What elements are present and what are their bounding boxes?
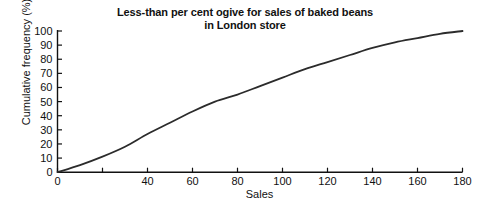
y-tick-label: 80 xyxy=(40,53,52,65)
y-tick-label: 100 xyxy=(34,25,52,37)
x-tick-label: 180 xyxy=(453,175,471,187)
chart-figure: Less-than per cent ogive for sales of ba… xyxy=(0,0,486,208)
y-tick-label: 90 xyxy=(40,39,52,51)
y-tick-label: 20 xyxy=(40,138,52,150)
y-tick-label: 0 xyxy=(46,166,52,178)
x-tick-label: 120 xyxy=(318,175,336,187)
y-tick-label: 50 xyxy=(40,96,52,108)
x-tick-label: 160 xyxy=(408,175,426,187)
plot-area: 0406080100120140160180 01020304050607080… xyxy=(0,0,486,208)
x-axis-ticks: 0406080100120140160180 xyxy=(54,168,471,188)
x-tick-label: 140 xyxy=(363,175,381,187)
y-tick-label: 60 xyxy=(40,81,52,93)
ogive-curve-line xyxy=(58,31,463,172)
y-tick-label: 10 xyxy=(40,152,52,164)
x-tick-label: 80 xyxy=(231,175,243,187)
x-tick-label: 0 xyxy=(54,175,60,187)
y-tick-label: 40 xyxy=(40,110,52,122)
y-tick-label: 30 xyxy=(40,124,52,136)
x-tick-label: 60 xyxy=(186,175,198,187)
x-axis-label: Sales xyxy=(57,188,462,200)
x-tick-label: 100 xyxy=(273,175,291,187)
x-tick-label: 40 xyxy=(141,175,153,187)
y-tick-label: 70 xyxy=(40,67,52,79)
